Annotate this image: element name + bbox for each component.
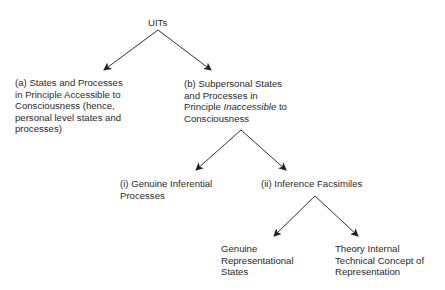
node-ii: (ii) Inference Facsimiles: [261, 178, 362, 190]
node-theory-internal-concept: Theory Internal Technical Concept of Rep…: [335, 243, 424, 278]
node-b-line: Consciousness: [184, 113, 287, 125]
node-genuine-line: States: [221, 266, 294, 278]
node-b-text: to: [276, 101, 287, 112]
node-genuine-representational-states: Genuine Representational States: [221, 243, 294, 278]
node-a-line: in Principle Accessible to: [15, 89, 123, 101]
node-i-line: Processes: [120, 190, 212, 202]
edge-ii-to-theory: [315, 196, 358, 236]
node-a-line: (a) States and Processes: [15, 77, 123, 89]
node-ii-line: (ii) Inference Facsimiles: [261, 178, 362, 190]
node-a-line: processes): [15, 123, 123, 135]
node-b-emphasis: Inaccessible: [223, 101, 276, 112]
node-theory-line: Theory Internal: [335, 243, 424, 255]
edge-b-to-i: [196, 130, 241, 170]
node-a-line: Consciousness (hence,: [15, 100, 123, 112]
node-a-line: personal level states and: [15, 112, 123, 124]
edge-uits-to-b: [158, 30, 211, 70]
node-theory-line: Representation: [335, 266, 424, 278]
node-b-text: Principle: [184, 101, 223, 112]
node-b-line: and Processes in: [184, 90, 287, 102]
node-i: (i) Genuine Inferential Processes: [120, 178, 212, 201]
node-genuine-line: Representational: [221, 255, 294, 267]
edge-uits-to-a: [104, 30, 158, 70]
node-b: (b) Subpersonal States and Processes in …: [184, 78, 287, 124]
node-b-line: Principle Inaccessible to: [184, 101, 287, 113]
node-uits: UITs: [148, 17, 167, 29]
node-b-line: (b) Subpersonal States: [184, 78, 287, 90]
node-theory-line: Technical Concept of: [335, 255, 424, 267]
edge-b-to-ii: [241, 130, 286, 170]
node-i-line: (i) Genuine Inferential: [120, 178, 212, 190]
node-a: (a) States and Processes in Principle Ac…: [15, 77, 123, 135]
node-genuine-line: Genuine: [221, 243, 294, 255]
edge-ii-to-genuine: [274, 196, 315, 236]
node-uits-label: UITs: [148, 17, 167, 28]
